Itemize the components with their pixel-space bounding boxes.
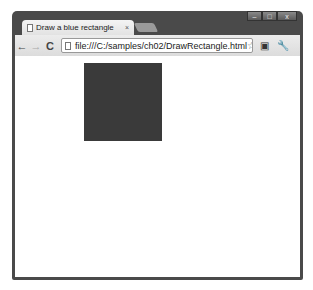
url-text: file:///C:/samples/ch02/DrawRectangle.ht… (75, 41, 247, 51)
wrench-icon[interactable]: 🔧 (275, 40, 291, 51)
page-menu-icon[interactable]: ▣ (256, 40, 272, 51)
tab-close-icon[interactable]: × (125, 24, 129, 31)
reload-icon[interactable]: C (43, 40, 57, 52)
minimize-button[interactable]: – (247, 11, 262, 21)
new-tab-button[interactable] (134, 23, 158, 32)
toolbar: ← → C file:///C:/samples/ch02/DrawRectan… (15, 35, 300, 56)
page-icon (27, 24, 33, 32)
window-controls: – □ x (247, 11, 297, 21)
close-button[interactable]: x (277, 11, 297, 21)
browser-window: Draw a blue rectangle × – □ x ← → C file… (12, 11, 303, 280)
page-content (15, 56, 300, 277)
drawn-rectangle (84, 63, 162, 141)
maximize-button[interactable]: □ (262, 11, 277, 21)
tab-draw-rectangle[interactable]: Draw a blue rectangle × (22, 20, 134, 35)
page-icon (65, 42, 71, 50)
address-bar[interactable]: file:///C:/samples/ch02/DrawRectangle.ht… (61, 38, 253, 53)
title-bar: Draw a blue rectangle × – □ x (12, 11, 303, 33)
bookmark-star-icon[interactable]: ☆ (247, 40, 253, 51)
tab-title: Draw a blue rectangle (36, 23, 114, 32)
forward-icon[interactable]: → (29, 40, 43, 52)
back-icon[interactable]: ← (15, 40, 29, 52)
